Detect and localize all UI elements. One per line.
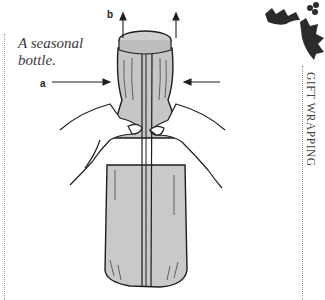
holly-leaf-icon (265, 2, 324, 60)
arrow-label-a: a (40, 78, 46, 89)
arrow-label-b: b (107, 9, 113, 20)
wrapped-bottle (105, 31, 187, 287)
arrow-a-right (184, 79, 220, 85)
arrow-a-left (52, 79, 110, 85)
arrow-b-right (173, 13, 179, 38)
bottle-wrapping-illustration (0, 0, 325, 300)
